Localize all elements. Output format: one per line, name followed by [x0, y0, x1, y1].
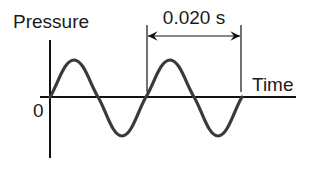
x-axis-label: Time [252, 74, 294, 95]
pressure-time-diagram: Pressure 0.020 s Time 0 [0, 0, 318, 170]
period-label: 0.020 s [163, 7, 225, 28]
y-axis-label: Pressure [13, 11, 89, 32]
origin-label: 0 [33, 100, 44, 121]
